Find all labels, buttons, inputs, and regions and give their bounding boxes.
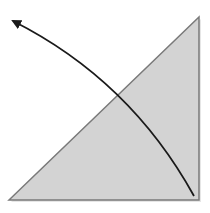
diagram-canvas <box>0 0 210 213</box>
right-triangle <box>9 17 199 200</box>
